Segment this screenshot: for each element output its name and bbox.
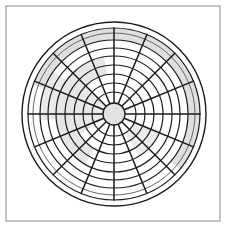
center-hub-layer xyxy=(103,103,125,125)
polar-grid-canvas xyxy=(0,0,227,228)
center-hub xyxy=(103,103,125,125)
polar-grid-figure: Polar Grid Diagram xyxy=(0,0,227,228)
